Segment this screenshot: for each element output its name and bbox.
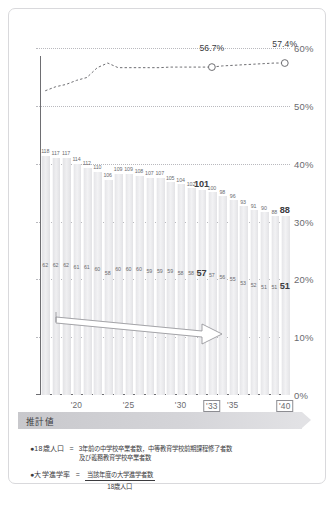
legend-definition-population: 3年前の中学校卒業者数，中等教育学校前期課程修了者数 及び義務教育学校卒業者数 xyxy=(79,444,310,463)
slide-root: 1186211762117621146111261110601065810960… xyxy=(0,0,336,531)
advancement-rate-line xyxy=(40,48,290,395)
legend-label-population: 18歳人口 xyxy=(34,444,64,454)
legend-formula-denominator: 18歳人口 xyxy=(85,481,155,491)
y-tick-10: 10% xyxy=(294,332,314,343)
legend-definition-line2: 及び義務教育学校卒業者数 xyxy=(79,454,151,461)
x-tick-20: '20 xyxy=(71,400,83,410)
legend-definition-line1: 3年前の中学校卒業者数，中等教育学校前期課程修了者数 xyxy=(79,445,233,452)
x-tick-30: '30 xyxy=(175,400,187,410)
estimate-band-label: 推計値 xyxy=(26,415,54,427)
decline-trend-arrow xyxy=(54,310,234,340)
estimate-band: 推計値 xyxy=(18,412,302,429)
chart-legend: ● 18歳人口 = 3年前の中学校卒業者数，中等教育学校前期課程修了者数 及び義… xyxy=(30,444,310,498)
y-tick-50: 50% xyxy=(294,100,314,111)
legend-equals-sign: = xyxy=(76,470,80,480)
legend-formula-fraction: 当該年度の大学進学者数 18歳人口 xyxy=(85,470,155,491)
y-tick-30: 30% xyxy=(294,216,314,227)
plot-area: 1186211762117621146111261110601065810960… xyxy=(40,48,290,395)
rate-marker xyxy=(281,60,288,67)
legend-formula-numerator: 当該年度の大学進学者数 xyxy=(85,470,155,481)
y-tick-60: 60% xyxy=(294,43,314,54)
y-tick-0: 0% xyxy=(294,390,308,401)
legend-item-rate: ● 大学進学率 = 当該年度の大学進学者数 18歳人口 xyxy=(30,470,310,491)
rate-point-label: 56.7% xyxy=(199,43,224,53)
x-tick-33: '33 xyxy=(203,400,221,412)
estimate-band-arrow-tip xyxy=(302,412,311,428)
y-tick-20: 20% xyxy=(294,274,314,285)
x-tick-35: '35 xyxy=(227,400,239,410)
x-tick-40: '40 xyxy=(276,400,294,412)
legend-item-population: ● 18歳人口 = 3年前の中学校卒業者数，中等教育学校前期課程修了者数 及び義… xyxy=(30,444,310,463)
rate-marker xyxy=(208,64,215,71)
rate-line-path xyxy=(45,63,285,91)
legend-label-rate: 大学進学率 xyxy=(34,470,71,480)
legend-equals-sign: = xyxy=(70,444,74,454)
x-tick-25: '25 xyxy=(123,400,135,410)
y-tick-40: 40% xyxy=(294,158,314,169)
